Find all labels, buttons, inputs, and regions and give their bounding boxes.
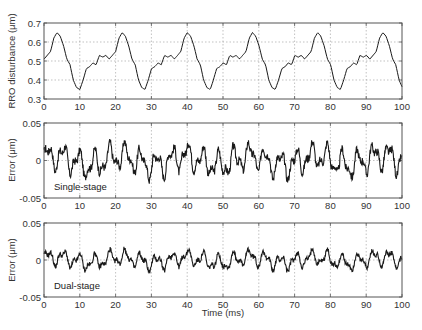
dual-stage-annotation: Dual-stage xyxy=(54,280,100,291)
y-tick-label: 0.7 xyxy=(28,18,41,29)
x-tick-label: 10 xyxy=(75,101,86,112)
x-tick-label: 10 xyxy=(75,200,86,211)
y-axis-label: RRO disturbance (μm) xyxy=(6,13,17,108)
y-tick-label: 0 xyxy=(36,255,41,266)
y-tick-labels: -0.0500.05 xyxy=(19,118,41,204)
x-tick-label: 0 xyxy=(41,101,46,112)
y-tick-label: 0 xyxy=(36,155,41,166)
x-tick-label: 100 xyxy=(394,299,410,310)
x-tick-label: 90 xyxy=(361,299,372,310)
x-tick-label: 20 xyxy=(110,200,121,211)
x-tick-label: 80 xyxy=(325,200,336,211)
y-tick-label: 0.05 xyxy=(23,118,42,129)
x-tick-label: 80 xyxy=(325,299,336,310)
x-tick-label: 40 xyxy=(182,299,193,310)
y-tick-label: -0.05 xyxy=(19,193,41,204)
x-tick-label: 100 xyxy=(394,200,410,211)
x-tick-label: 90 xyxy=(361,200,372,211)
x-tick-label: 70 xyxy=(289,299,300,310)
x-tick-label: 50 xyxy=(218,200,229,211)
y-tick-labels: -0.0500.05 xyxy=(19,218,41,303)
x-tick-label: 10 xyxy=(75,299,86,310)
x-tick-label: 60 xyxy=(254,101,265,112)
x-tick-label: 40 xyxy=(182,200,193,211)
x-tick-label: 90 xyxy=(361,101,372,112)
single-stage-error-panel: -0.0500.05 0102030405060708090100 Error … xyxy=(6,118,410,212)
y-tick-labels: 0.30.40.50.60.7 xyxy=(28,18,41,105)
y-tick-label: 0.6 xyxy=(28,37,41,48)
x-tick-label: 70 xyxy=(289,101,300,112)
x-tick-label: 0 xyxy=(41,200,46,211)
x-tick-label: 0 xyxy=(41,299,46,310)
y-axis-label: Error (μm) xyxy=(6,138,17,181)
x-tick-label: 60 xyxy=(254,299,265,310)
x-tick-label: 30 xyxy=(146,200,157,211)
rro-disturbance-panel: 0.30.40.50.60.7 0102030405060708090100 R… xyxy=(6,13,410,112)
x-tick-labels: 0102030405060708090100 xyxy=(41,200,410,211)
x-tick-label: 30 xyxy=(146,101,157,112)
y-tick-label: 0.4 xyxy=(28,75,41,86)
x-tick-label: 40 xyxy=(182,101,193,112)
y-tick-label: 0.3 xyxy=(28,94,41,105)
x-tick-label: 100 xyxy=(394,101,410,112)
x-tick-labels: 0102030405060708090100 xyxy=(41,101,410,112)
x-tick-label: 20 xyxy=(110,299,121,310)
y-tick-label: 0.05 xyxy=(23,218,42,229)
x-tick-label: 60 xyxy=(254,200,265,211)
x-tick-label: 20 xyxy=(110,101,121,112)
x-axis-label: Time (ms) xyxy=(202,307,244,318)
x-tick-label: 80 xyxy=(325,101,336,112)
x-tick-label: 70 xyxy=(289,200,300,211)
y-tick-label: 0.5 xyxy=(28,56,41,67)
x-tick-label: 30 xyxy=(146,299,157,310)
y-tick-label: -0.05 xyxy=(19,292,41,303)
y-axis-label: Error (μm) xyxy=(6,238,17,281)
figure: 0.30.40.50.60.7 0102030405060708090100 R… xyxy=(0,0,422,330)
x-tick-label: 50 xyxy=(218,101,229,112)
single-stage-annotation: Single-stage xyxy=(54,181,107,192)
dual-stage-error-panel: -0.0500.05 0102030405060708090100 Error … xyxy=(6,218,410,311)
